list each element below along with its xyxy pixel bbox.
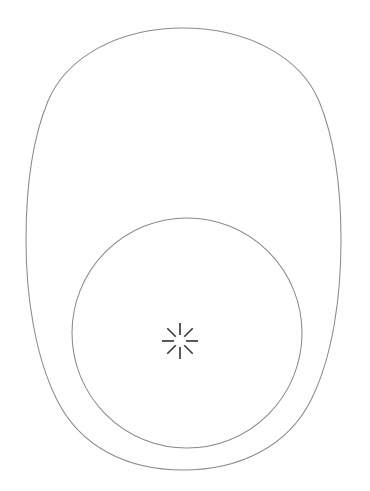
vector-drawing (0, 0, 370, 491)
canvas-background (0, 0, 370, 491)
drawing-canvas (0, 0, 370, 491)
